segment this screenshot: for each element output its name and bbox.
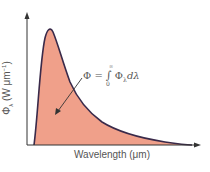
integral-lower: 0 — [106, 80, 110, 87]
x-axis-label: Wavelength (μm) — [74, 149, 150, 160]
y-close: ) — [1, 61, 12, 64]
y-units: (W μm — [1, 71, 12, 103]
eq-lhs: Φ = — [83, 70, 106, 81]
y-symbol: Φ — [1, 107, 12, 115]
y-axis-label: Φλ (W μm−1) — [1, 61, 14, 115]
eq-differential: dλ — [127, 70, 140, 81]
eq-integrand: Φ — [115, 70, 123, 81]
y-sub: λ — [8, 104, 14, 107]
integral: ∫ ∞ 0 — [106, 69, 112, 82]
x-axis-arrow-icon — [194, 143, 201, 148]
flux-equation: Φ = ∫ ∞ 0 Φλdλ — [83, 69, 140, 83]
y-exp: −1 — [1, 65, 7, 72]
y-axis-arrow-icon — [25, 12, 30, 19]
integral-upper: ∞ — [109, 63, 113, 69]
